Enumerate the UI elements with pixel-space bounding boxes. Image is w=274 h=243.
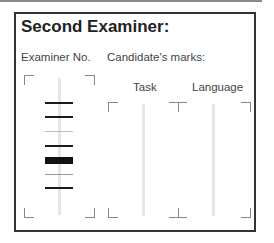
barcode-bar: [45, 187, 73, 189]
language-label: Language: [192, 81, 243, 93]
corner-mark: [24, 75, 34, 85]
barcode-bar: [45, 157, 73, 164]
corner-mark: [85, 75, 95, 85]
barcode-bar: [45, 116, 73, 118]
entry-guide-line: [212, 104, 215, 216]
barcode-bar: [45, 102, 73, 104]
divider-tee-bottom: [169, 208, 187, 218]
corner-mark: [85, 208, 95, 218]
section-title: Second Examiner:: [21, 17, 169, 37]
corner-mark: [108, 208, 118, 218]
examiner-no-label: Examiner No.: [21, 51, 91, 63]
task-label: Task: [133, 81, 157, 93]
candidates-marks-label: Candidate's marks:: [107, 51, 205, 63]
corner-mark: [241, 102, 251, 112]
corner-mark: [108, 102, 118, 112]
corner-mark: [24, 208, 34, 218]
page-top-rule: [0, 0, 262, 2]
entry-guide-line: [142, 104, 145, 216]
divider-tee-top: [169, 102, 187, 112]
barcode-bar: [45, 131, 73, 132]
barcode-bar: [45, 174, 73, 175]
barcode-bar: [45, 145, 73, 147]
corner-mark: [241, 208, 251, 218]
second-examiner-box: [14, 12, 256, 232]
